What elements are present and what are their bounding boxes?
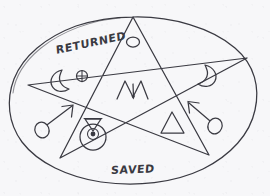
- mars-symbol-right-icon: [33, 105, 73, 140]
- label-saved: SAVED: [111, 162, 156, 177]
- earth-symbol-icon: [77, 71, 88, 82]
- aries-m-glyph-icon: [117, 81, 148, 100]
- triangle-symbol-icon: [161, 112, 184, 133]
- mars-symbol-left-icon: [188, 102, 224, 137]
- pentagram-sketch-page: RETURNED SAVED: [0, 0, 270, 196]
- outer-ellipse: [9, 17, 256, 184]
- circle-symbol: [127, 37, 140, 47]
